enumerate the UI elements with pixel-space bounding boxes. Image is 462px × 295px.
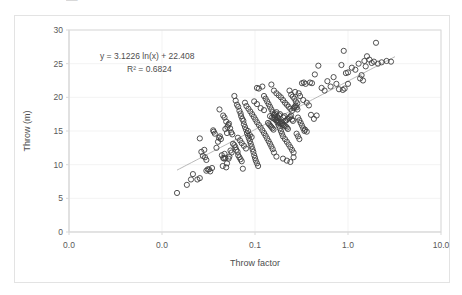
data-point <box>325 79 330 84</box>
x-tick-label: 1.0 <box>342 240 354 250</box>
data-point <box>301 97 306 102</box>
x-axis-title: Throw factor <box>230 258 280 268</box>
y-tick-label: 30 <box>54 25 64 35</box>
data-point <box>217 107 222 112</box>
data-point <box>184 182 189 187</box>
data-point <box>197 136 202 141</box>
y-tick-label: 20 <box>54 92 64 102</box>
data-point <box>174 190 179 195</box>
y-tick-label: 0 <box>58 227 63 237</box>
chart-root: ▬▬ 0.00.00.11.010.0 051015202530 Throw f… <box>0 0 462 295</box>
x-tick-label: 0.1 <box>249 240 261 250</box>
data-point <box>190 171 195 176</box>
trendline-path <box>177 57 395 170</box>
y-tick-label: 10 <box>54 160 64 170</box>
data-point <box>363 64 368 69</box>
data-point <box>240 166 245 171</box>
trendline-annotations: y = 3.1226 ln(x) + 22.408R² = 0.6824 <box>100 51 195 74</box>
data-point <box>331 75 336 80</box>
data-point <box>312 72 317 77</box>
data-point <box>311 116 316 121</box>
x-tick-label: 10.0 <box>433 240 450 250</box>
data-point <box>328 84 333 89</box>
x-tick-label: 0.0 <box>156 240 168 250</box>
scatter-plot: 0.00.00.11.010.0 051015202530 Throw fact… <box>0 0 462 295</box>
trendline-equation-label: y = 3.1226 ln(x) + 22.408 <box>100 51 195 61</box>
x-tick-label: 0.0 <box>63 240 75 250</box>
data-point <box>290 118 295 123</box>
data-point <box>373 40 378 45</box>
trendline <box>177 57 395 170</box>
data-point <box>341 48 346 53</box>
data-point <box>334 81 339 86</box>
data-point <box>188 177 193 182</box>
y-axis-title: Throw (m) <box>22 111 32 152</box>
data-point <box>269 82 274 87</box>
y-tick-label: 5 <box>58 193 63 203</box>
x-axis-tick-labels: 0.00.00.11.010.0 <box>63 240 449 250</box>
y-tick-label: 25 <box>54 59 64 69</box>
y-axis-tick-labels: 051015202530 <box>54 25 64 237</box>
data-point <box>274 154 279 159</box>
y-tick-label: 15 <box>54 126 64 136</box>
r-squared-label: R² = 0.6824 <box>127 64 172 74</box>
data-point <box>339 62 344 67</box>
data-point <box>314 113 319 118</box>
